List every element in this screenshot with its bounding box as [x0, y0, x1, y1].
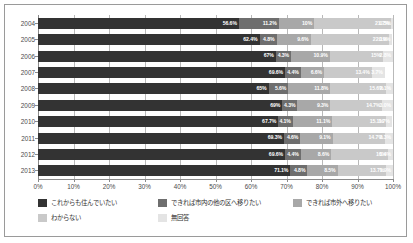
bar-segment: 4.6% — [284, 133, 300, 144]
x-axis-label-60%: 60% — [245, 183, 258, 190]
bar-value-label: 1.9% — [380, 168, 391, 173]
bar-segment: 10.9% — [291, 51, 330, 62]
bar-value-label: 69.6% — [269, 152, 283, 157]
bar-value-label: 4.3% — [278, 53, 289, 58]
bar-row: 201067.7%4.1%11.1%15.1%1.7% — [38, 116, 393, 127]
bar-segment: 71.1% — [38, 165, 290, 176]
bar-segment: 4.8% — [260, 34, 277, 45]
bar-segment: 1.9% — [386, 165, 393, 176]
bar-row: 200562.4%4.8%9.6%22.1%0.9% — [38, 34, 393, 45]
bar-segment: 65% — [38, 83, 269, 94]
bar-value-label: 3.0% — [380, 103, 391, 108]
bar-segment: 14.7% — [330, 100, 382, 111]
legend-item[interactable]: わからない — [38, 214, 81, 222]
bar-segment: 6.6% — [301, 67, 324, 78]
bar-segment: 0.5% — [391, 18, 393, 29]
x-axis-label-40%: 40% — [174, 183, 187, 190]
y-axis-label-2007: 2007 — [21, 67, 35, 78]
bar-segment: 8.5% — [307, 165, 337, 176]
legend-item[interactable]: できれば市内の他の区へ移りたい — [158, 199, 261, 207]
bar-value-label: 67% — [264, 53, 274, 58]
x-axis-label-50%: 50% — [209, 183, 222, 190]
x-axis: 0%10%20%30%40%50%60%70%80%90%100% — [38, 179, 393, 193]
gridline-100% — [393, 15, 394, 179]
bar-value-label: 13.4% — [355, 70, 369, 75]
bar-value-label: 71.1% — [274, 168, 288, 173]
x-axis-tick — [38, 179, 39, 182]
bar-segment: 15.6% — [330, 83, 385, 94]
bar-value-label: 69% — [270, 103, 280, 108]
bar-row: 201371.1%4.8%8.5%13.7%1.9% — [38, 165, 393, 176]
bar-segment: 67.7% — [38, 116, 278, 127]
bar-value-label: 11.1% — [316, 119, 330, 124]
bar-segment: 0.9% — [389, 34, 392, 45]
bar-segment: 4.4% — [285, 67, 301, 78]
bar-segment: 62.4% — [38, 34, 260, 45]
bar-segment: 9.3% — [297, 100, 330, 111]
y-axis-label-2006: 2006 — [21, 51, 35, 62]
bar-value-label: 4.1% — [279, 119, 290, 124]
bar-segment: 9.6% — [277, 34, 311, 45]
bar-value-label: 8.5% — [324, 168, 335, 173]
bar-value-label: 69.3% — [268, 135, 282, 140]
bar-value-label: 14.7% — [366, 103, 380, 108]
bar-segment: 67% — [38, 51, 276, 62]
bar-segment: 5.6% — [269, 83, 289, 94]
bar-value-label: 11.2% — [263, 21, 277, 26]
bar-segment: 69.6% — [38, 67, 285, 78]
x-axis-tick — [109, 179, 110, 182]
bar-row: 200769.6%4.4%6.6%13.4%3.7% — [38, 67, 393, 78]
chart-container: 200456.6%11.2%10%21.7%0.5%200562.4%4.8%9… — [4, 4, 407, 237]
bar-value-label: 6.6% — [311, 70, 322, 75]
bar-value-label: 11.8% — [314, 86, 328, 91]
chart-legend: これからも住んでいたいできれば市内の他の区へ移りたいできれば市外へ移りたい わか… — [38, 199, 398, 229]
x-axis-label-80%: 80% — [316, 183, 329, 190]
bar-value-label: 10% — [302, 21, 312, 26]
bar-segment: 4.1% — [278, 116, 293, 127]
bar-segment: 69.3% — [38, 133, 284, 144]
bar-value-label: 10.9% — [314, 53, 328, 58]
bar-value-label: 4.8% — [294, 168, 305, 173]
legend-item[interactable]: できれば市外へ移りたい — [293, 199, 372, 207]
bar-value-label: 4.3% — [284, 103, 295, 108]
bar-value-label: 0.9% — [379, 37, 390, 42]
legend-item[interactable]: 無回答 — [158, 214, 189, 222]
bar-segment: 13.4% — [324, 67, 372, 78]
legend-label: これからも住んでいたい — [51, 200, 117, 206]
y-axis-label-2013: 2013 — [21, 165, 35, 176]
bar-segment: 11.1% — [293, 116, 332, 127]
bar-value-label: 2.8% — [380, 53, 391, 58]
bar-segment: 14.7% — [333, 133, 385, 144]
y-axis-label-2010: 2010 — [21, 116, 35, 127]
bar-segment: 1.7% — [386, 116, 392, 127]
x-axis-label-0%: 0% — [33, 183, 42, 190]
legend-swatch-icon — [158, 199, 167, 207]
y-axis-label-2012: 2012 — [21, 149, 35, 160]
bar-segment: 69% — [38, 100, 282, 111]
bar-value-label: 4.4% — [287, 70, 298, 75]
x-axis-label-20%: 20% — [103, 183, 116, 190]
bar-row: 201169.3%4.6%9.1%14.7%2.3% — [38, 133, 393, 144]
bar-value-label: 4.4% — [287, 152, 298, 157]
x-axis-tick — [145, 179, 146, 182]
bar-segment: 10% — [279, 18, 315, 29]
legend-item[interactable]: これからも住んでいたい — [38, 199, 117, 207]
y-axis-label-2011: 2011 — [21, 133, 35, 144]
x-axis-label-100%: 100% — [385, 183, 401, 190]
bar-segment: 4.8% — [290, 165, 307, 176]
bar-segment: 2.1% — [386, 83, 393, 94]
bar-segment: 2.3% — [385, 133, 393, 144]
x-axis-label-30%: 30% — [138, 183, 151, 190]
bar-segment: 15% — [330, 51, 383, 62]
bar-value-label: 4.6% — [287, 135, 298, 140]
bar-segment: 3.7% — [372, 67, 385, 78]
x-axis-tick — [74, 179, 75, 182]
x-axis-tick — [180, 179, 181, 182]
bar-value-label: 67.7% — [262, 119, 276, 124]
x-axis-tick — [393, 179, 394, 182]
x-axis-tick — [287, 179, 288, 182]
bar-segment: 11.8% — [288, 83, 330, 94]
bar-value-label: 2.1% — [380, 86, 391, 91]
plot-area: 200456.6%11.2%10%21.7%0.5%200562.4%4.8%9… — [38, 15, 393, 179]
bar-segment: 11.2% — [239, 18, 279, 29]
